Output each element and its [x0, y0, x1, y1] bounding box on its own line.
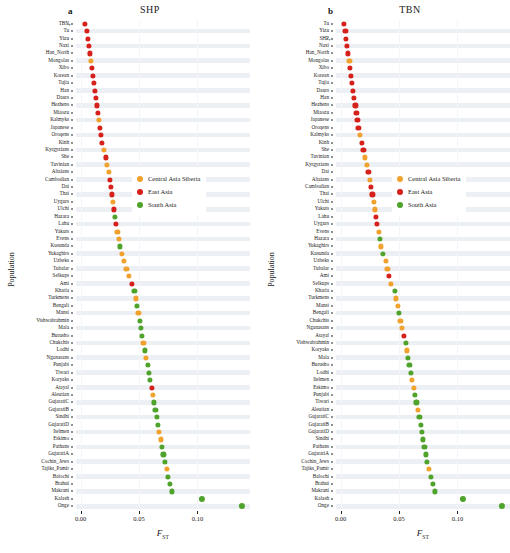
y-axis-tick-label: Nganasans: [307, 325, 329, 330]
y-axis-tick: [331, 313, 333, 314]
y-axis-tick: [71, 372, 73, 373]
x-axis-tick: [197, 511, 198, 514]
y-axis-tick: [331, 424, 333, 425]
grid-stripe: [336, 88, 510, 93]
grid-stripe: [336, 162, 510, 167]
y-axis-tick: [331, 142, 333, 143]
y-axis-tick: [331, 305, 333, 306]
panel-letter-a: a: [68, 6, 73, 16]
grid-stripe: [76, 222, 250, 227]
y-axis-tick: [331, 268, 333, 269]
y-axis-tick-label: Selkups: [53, 274, 69, 279]
y-axis-tick-label: GujaratiB: [49, 407, 69, 412]
grid-stripe: [76, 504, 250, 509]
y-axis-tick-label: Xibo: [59, 66, 69, 71]
y-axis-tick-label: Bengali: [53, 303, 69, 308]
y-axis-tick-label: Tu: [323, 21, 329, 26]
y-axis-tick-label: Aleutian: [311, 407, 329, 412]
y-axis-tick: [71, 231, 73, 232]
y-axis-tick-label: Mala: [318, 355, 329, 360]
y-axis-tick-label: Itelmen: [313, 377, 329, 382]
y-axis-labels-a: TBNTuYizuNaxiHan_NorthMongolasXiboKorean…: [0, 20, 74, 510]
y-axis-tick: [331, 380, 333, 381]
grid-stripe: [76, 370, 250, 375]
legend-swatch-icon: [397, 202, 403, 208]
grid-stripe: [76, 296, 250, 301]
grid-stripe: [336, 296, 510, 301]
figure-container: a SHP Population TBNTuYizuNaxiHan_NorthM…: [0, 0, 510, 553]
y-axis-tick-label: Ami: [60, 281, 69, 286]
y-axis-tick: [71, 261, 73, 262]
y-axis-tick: [71, 342, 73, 343]
y-axis-tick-label: Onge: [318, 504, 329, 509]
y-axis-tick-label: Hezhens: [51, 103, 69, 108]
y-axis-tick: [71, 45, 73, 46]
grid-stripe: [336, 311, 510, 316]
y-axis-tick: [71, 112, 73, 113]
grid-line-vertical: [341, 20, 342, 510]
legend-label: Central Asia Siberia: [148, 175, 200, 182]
y-axis-tick: [71, 179, 73, 180]
panel-title-shp: SHP: [95, 4, 205, 15]
x-axis-tick-label: 0.05: [133, 515, 144, 522]
y-axis-tick: [71, 120, 73, 121]
y-axis-tick-label: Altaians: [312, 177, 329, 182]
y-axis-tick-label: Eskimo: [53, 437, 69, 442]
y-axis-tick-label: Oroqens: [51, 132, 69, 137]
y-axis-tick-label: Sindhi: [315, 437, 329, 442]
y-axis-tick-label: Tujia: [318, 80, 329, 85]
y-axis-tick: [331, 90, 333, 91]
y-axis-tick-label: GujaratiB: [309, 422, 329, 427]
grid-stripe: [76, 29, 250, 34]
grid-stripe: [76, 400, 250, 405]
y-axis-tick: [71, 68, 73, 69]
y-axis-tick-label: Kalash: [55, 496, 69, 501]
y-axis-tick: [331, 350, 333, 351]
grid-stripe: [76, 162, 250, 167]
y-axis-tick-label: Yizu: [59, 36, 69, 41]
grid-stripe: [76, 44, 250, 49]
y-axis-tick: [71, 424, 73, 425]
y-axis-tick: [71, 387, 73, 388]
legend-label: East Asia: [148, 188, 172, 195]
y-axis-tick: [331, 506, 333, 507]
y-axis-tick-label: Uygurs: [314, 222, 329, 227]
y-axis-tick-label: Dai: [62, 184, 70, 189]
y-axis-tick-label: Cambodian: [45, 177, 69, 182]
y-axis-tick-label: Yukaghirs: [308, 244, 329, 249]
panel-shp: a SHP Population TBNTuYizuNaxiHan_NorthM…: [0, 0, 255, 553]
x-axis-tick-label: 0.05: [393, 515, 404, 522]
y-axis-tick-label: Kinh: [319, 140, 329, 145]
y-axis-tick-label: Vishwabrahmin: [36, 318, 69, 323]
y-axis-tick-label: Makrani: [51, 489, 69, 494]
y-axis-tick: [331, 320, 333, 321]
y-axis-tick-label: Tujia: [58, 80, 69, 85]
y-axis-tick-label: Atayal: [55, 385, 69, 390]
y-axis-tick: [331, 127, 333, 128]
y-axis-tick-label: Tajiks_Pamir: [301, 467, 329, 472]
annotation-arrow-icon: →: [325, 35, 332, 42]
grid-stripe: [336, 237, 510, 242]
y-axis-tick-label: Miaozu: [53, 110, 69, 115]
y-axis-tick: [71, 328, 73, 329]
y-axis-tick: [71, 53, 73, 54]
grid-stripe: [336, 118, 510, 123]
y-axis-tick: [331, 224, 333, 225]
y-axis-tick: [331, 209, 333, 210]
y-axis-tick: [331, 179, 333, 180]
y-axis-tick: [331, 439, 333, 440]
y-axis-tick-label: Daurs: [57, 95, 69, 100]
y-axis-tick: [331, 394, 333, 395]
grid-stripe: [336, 370, 510, 375]
y-axis-tick-label: Hazara: [54, 214, 69, 219]
y-axis-tick: [331, 112, 333, 113]
y-axis-tick: [331, 290, 333, 291]
y-axis-tick-label: Makrani: [311, 489, 329, 494]
y-axis-tick: [331, 149, 333, 150]
y-axis-tick-label: Turkmens: [308, 296, 329, 301]
y-axis-tick-label: Evens: [56, 236, 69, 241]
plot-area-tbn: [336, 20, 510, 510]
y-axis-tick-label: Tiwari: [315, 400, 329, 405]
y-axis-tick: [71, 239, 73, 240]
y-axis-tick: [71, 194, 73, 195]
